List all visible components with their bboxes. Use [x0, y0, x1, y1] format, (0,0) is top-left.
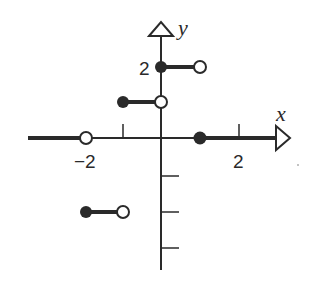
closed-point — [155, 61, 167, 73]
y-tick-label-pos2: 2 — [139, 58, 150, 79]
open-point — [80, 132, 92, 144]
x-tick-label-neg2: −2 — [74, 151, 96, 172]
step-function-graph: y x −2 2 2 — [0, 0, 311, 281]
x-axis-label: x — [275, 101, 286, 126]
x-tick-label-pos2: 2 — [233, 151, 244, 172]
y-axis-label: y — [176, 15, 188, 40]
closed-point — [80, 206, 92, 218]
closed-point — [194, 132, 207, 145]
speck — [297, 164, 299, 166]
open-point — [194, 61, 206, 73]
open-point — [155, 96, 167, 108]
open-point — [117, 206, 129, 218]
x-axis-arrow-icon — [276, 126, 290, 150]
y-axis-arrow-icon — [149, 22, 173, 36]
closed-point — [117, 96, 129, 108]
